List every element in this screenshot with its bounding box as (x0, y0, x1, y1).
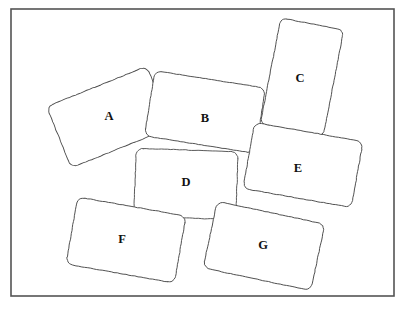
diagram-canvas: ABCDEFG (0, 0, 413, 310)
card-e-label: E (294, 161, 302, 175)
card-a-label: A (104, 109, 113, 123)
card-c-label: C (295, 71, 304, 85)
card-f-label: F (118, 232, 126, 246)
card-g-label: G (258, 238, 268, 252)
figure-svg: ABCDEFG (0, 0, 413, 310)
card-b-label: B (201, 111, 209, 125)
card-d-label: D (181, 175, 190, 189)
